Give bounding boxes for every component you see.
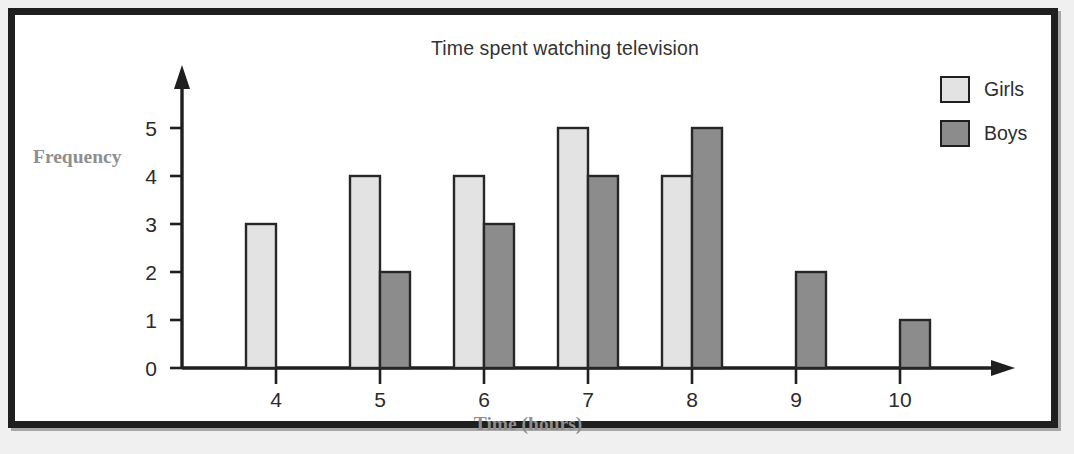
x-tick-label-6: 6 bbox=[478, 388, 490, 411]
x-tick-label-10: 10 bbox=[888, 388, 911, 411]
bar-boys-9 bbox=[796, 272, 826, 368]
x-tick-label-8: 8 bbox=[686, 388, 698, 411]
x-tick-label-5: 5 bbox=[374, 388, 386, 411]
plot-area: 0 1 2 3 4 5 4 5 6 7 8 9 bbox=[15, 15, 1065, 435]
bar-boys-7 bbox=[588, 176, 618, 368]
chart-canvas: Time spent watching television Girls Boy… bbox=[15, 15, 1051, 421]
bar-girls-5 bbox=[350, 176, 380, 368]
bar-girls-6 bbox=[454, 176, 484, 368]
bar-boys-5 bbox=[380, 272, 410, 368]
bar-girls-7 bbox=[558, 128, 588, 368]
bar-girls-8 bbox=[662, 176, 692, 368]
bar-girls-4 bbox=[246, 224, 276, 368]
x-tick-label-7: 7 bbox=[582, 388, 594, 411]
y-tick-label-4: 4 bbox=[145, 165, 157, 188]
chart-frame: Time spent watching television Girls Boy… bbox=[8, 8, 1058, 428]
bar-boys-8 bbox=[692, 128, 722, 368]
bar-boys-10 bbox=[900, 320, 930, 368]
y-axis-arrow-icon bbox=[174, 65, 190, 89]
y-tick-label-5: 5 bbox=[145, 117, 157, 140]
y-tick-label-0: 0 bbox=[145, 357, 157, 380]
x-axis-ticks: 4 5 6 7 8 9 10 bbox=[270, 368, 912, 411]
x-tick-label-4: 4 bbox=[270, 388, 282, 411]
y-tick-label-1: 1 bbox=[145, 309, 157, 332]
y-tick-label-2: 2 bbox=[145, 261, 157, 284]
y-tick-label-3: 3 bbox=[145, 213, 157, 236]
x-axis-arrow-icon bbox=[991, 360, 1015, 376]
x-tick-label-9: 9 bbox=[790, 388, 802, 411]
bars-layer bbox=[246, 128, 930, 368]
y-axis-ticks: 0 1 2 3 4 5 bbox=[145, 117, 182, 380]
bar-boys-6 bbox=[484, 224, 514, 368]
